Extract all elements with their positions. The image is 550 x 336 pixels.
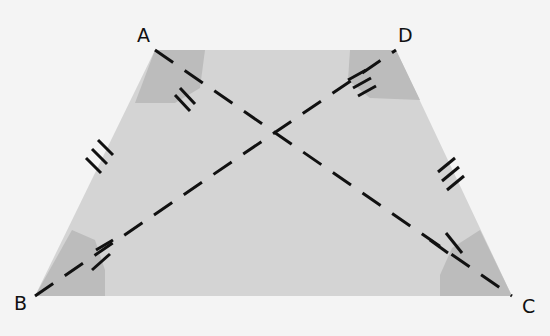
vertex-label-c: C xyxy=(522,295,535,317)
vertex-label-a: A xyxy=(137,24,150,46)
trapezoid-diagram: A D B C xyxy=(0,0,550,336)
vertex-label-d: D xyxy=(398,24,413,46)
angle-shade-b xyxy=(35,230,105,296)
vertex-label-b: B xyxy=(14,292,27,314)
trapezoid-shape xyxy=(35,50,512,296)
